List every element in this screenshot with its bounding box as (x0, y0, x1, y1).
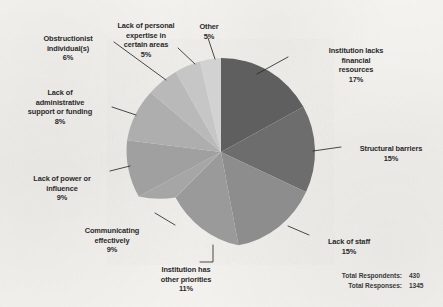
slice-label-other-text: Other (199, 22, 218, 31)
leader-line-power (110, 166, 130, 171)
leader-line-financial (257, 57, 288, 74)
total-responses-value: 1345 (409, 281, 435, 291)
pie-chart: Institution lacks financial resources 17… (0, 0, 443, 307)
slice-label-obstructionist-pct: 6% (22, 53, 114, 63)
slice-label-communicating: Communicating effectively 9% (64, 216, 160, 265)
slice-label-administrative-pct: 8% (8, 117, 112, 127)
slice-label-administrative: Lack of administrative support or fundin… (8, 78, 112, 137)
leader-line-administrative (112, 107, 136, 115)
slice-label-staff: Lack of staff 15% (310, 227, 388, 266)
leader-line-staff (288, 226, 309, 235)
slice-label-power-text: Lack of power or influence (33, 174, 91, 193)
slice-label-expertise: Lack of personal expertise in certain ar… (104, 11, 188, 70)
slice-label-obstructionist-text: Obstructionist individual(s) (43, 34, 92, 53)
total-respondents-label: Total Respondents: (342, 271, 402, 281)
total-responses-row: Total Responses: 1345 (342, 281, 435, 291)
slice-label-structural: Structural barriers 15% (341, 134, 441, 173)
leader-line-structural (313, 147, 341, 151)
slice-label-priorities-pct: 11% (140, 284, 232, 294)
slice-label-administrative-text: Lack of administrative support or fundin… (28, 88, 92, 117)
slice-label-staff-pct: 15% (310, 247, 388, 257)
slice-label-communicating-pct: 9% (64, 245, 160, 255)
slice-label-priorities-text: Institution has other priorities (161, 265, 212, 284)
slice-label-communicating-text: Communicating effectively (85, 226, 140, 245)
totals-block: Total Respondents: 430 Total Responses: … (342, 271, 435, 291)
slice-label-financial: Institution lacks financial resources 17… (300, 36, 412, 95)
slice-label-financial-pct: 17% (300, 75, 412, 85)
slice-label-other-pct: 5% (190, 32, 228, 42)
slice-label-expertise-text: Lack of personal expertise in certain ar… (117, 21, 174, 50)
slice-label-obstructionist: Obstructionist individual(s) 6% (22, 24, 114, 73)
slice-label-other: Other 5% (190, 12, 228, 51)
slice-label-structural-pct: 15% (341, 154, 441, 164)
total-responses-label: Total Responses: (348, 281, 402, 291)
slice-label-structural-text: Structural barriers (360, 144, 423, 153)
slice-label-power-pct: 9% (14, 193, 110, 203)
total-respondents-row: Total Respondents: 430 (342, 271, 435, 281)
slice-label-power: Lack of power or influence 9% (14, 164, 110, 213)
slice-label-financial-text: Institution lacks financial resources (329, 46, 384, 75)
slice-label-expertise-pct: 5% (104, 50, 188, 60)
total-respondents-value: 430 (409, 271, 435, 281)
slice-label-staff-text: Lack of staff (328, 237, 370, 246)
